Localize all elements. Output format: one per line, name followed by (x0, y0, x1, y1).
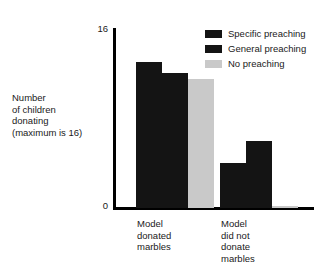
legend-label-1: General preaching (228, 43, 306, 54)
legend-swatch-icon-0 (205, 30, 222, 38)
y-axis-tick-16: 16 (84, 23, 108, 34)
bar-1-2 (272, 206, 298, 208)
bar-0-0 (136, 62, 162, 208)
legend-swatch-icon-1 (205, 45, 222, 53)
legend-item-0: Specific preaching (205, 27, 336, 40)
legend-label-0: Specific preaching (228, 28, 306, 39)
legend-label-2: No preaching (228, 58, 285, 69)
bar-group-0 (136, 28, 214, 208)
bar-chart-figure: Number of children donating (maximum is … (0, 0, 336, 278)
y-axis-label: Number of children donating (maximum is … (12, 92, 110, 138)
chart-legend: Specific preachingGeneral preachingNo pr… (205, 27, 336, 72)
y-axis-tick-0: 0 (84, 200, 108, 211)
x-axis-category-label-0: Model donated marbles (137, 218, 207, 253)
bar-1-1 (246, 141, 272, 209)
legend-swatch-icon-2 (205, 60, 222, 68)
bar-1-0 (220, 163, 246, 208)
bar-0-2 (188, 79, 214, 208)
legend-item-1: General preaching (205, 42, 336, 55)
bar-0-1 (162, 73, 188, 208)
legend-item-2: No preaching (205, 57, 336, 70)
x-axis-category-label-1: Model did not donate marbles (221, 218, 291, 264)
